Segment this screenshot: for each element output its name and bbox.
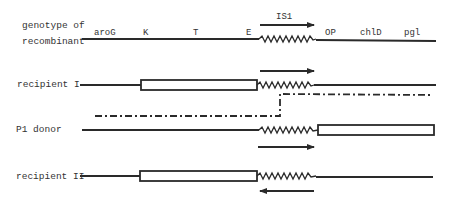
gene-label-pgl: pgl [404,28,420,38]
row-label-recombinant-1: genotype of [22,20,85,31]
gene-label-E: E [246,28,251,38]
recombinant-chromosome [82,25,436,42]
gene-label-aroG: aroG [94,28,116,38]
insertion-label-is1: IS1 [276,12,292,22]
recipient2-chromosome [80,171,433,191]
gene-label-chlD: chlD [360,28,382,38]
gene-label-T: T [193,28,198,38]
gene-label-OP: OP [325,28,336,38]
crossover-path [95,94,431,116]
p1donor-chromosome [82,125,434,147]
gene-label-K: K [143,28,148,38]
row-label-p1donor: P1 donor [16,124,62,135]
is1-zigzag [259,36,316,42]
deletion-box [318,125,434,135]
row-label-recombinant-2: recombinant [22,36,85,47]
deletion-box [141,80,257,90]
row-label-recipient1: recipient I [17,79,80,90]
is1-zigzag [257,82,314,88]
is1-zigzag [259,127,318,133]
recipient1-chromosome [80,71,436,90]
is1-zigzag [257,173,316,179]
deletion-box [140,171,257,181]
row-label-recipient2: recipient II [16,171,84,182]
